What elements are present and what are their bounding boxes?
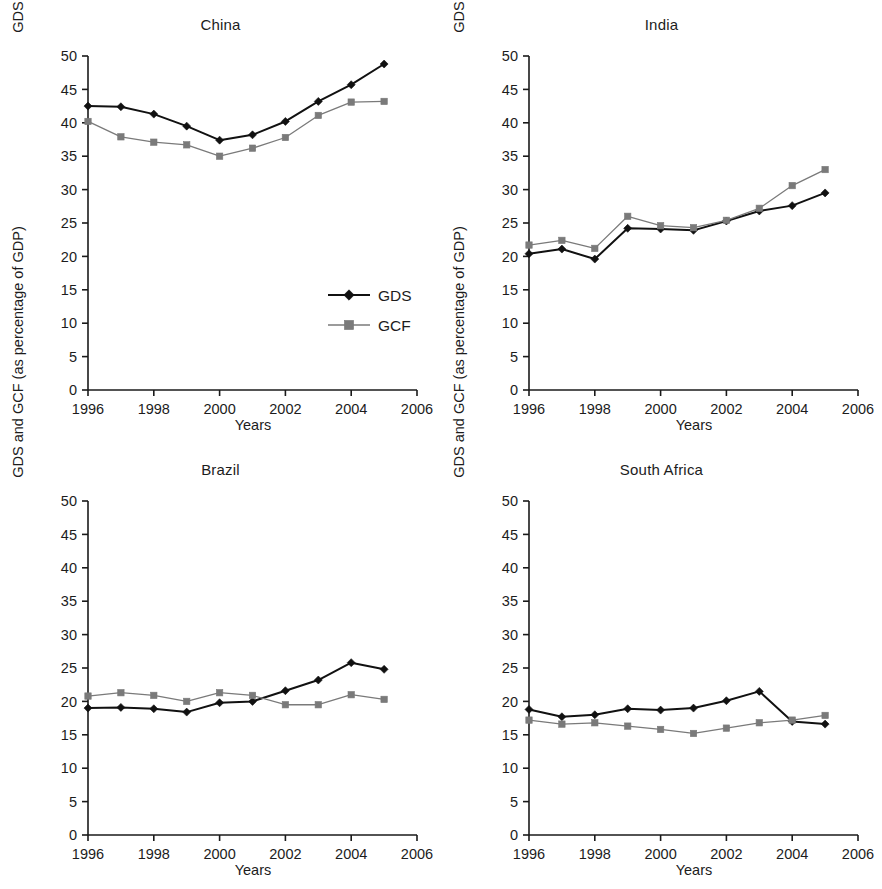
y-axis-label: GDS and GCF (as percentage of GDP) [451, 184, 471, 520]
y-tick-label: 10 [61, 315, 77, 331]
y-tick-label: 5 [510, 349, 518, 365]
data-point-marker [690, 730, 696, 736]
data-point-marker [216, 690, 222, 696]
data-point-marker [118, 134, 124, 140]
y-tick-label: 40 [502, 115, 518, 131]
data-point-marker [216, 136, 224, 144]
y-tick-label: 0 [69, 827, 77, 843]
chart-panel-india: 0510152025303540455019961998200020022004… [441, 0, 882, 445]
series-gds [525, 189, 829, 263]
data-point-marker [249, 131, 257, 139]
y-tick-label: 50 [502, 48, 518, 64]
x-tick-label: 1996 [513, 401, 545, 417]
x-tick-label: 1996 [513, 846, 545, 862]
data-point-marker [282, 702, 288, 708]
data-point-marker [151, 139, 157, 145]
chart-panel-brazil: 0510152025303540455019961998200020022004… [0, 445, 441, 889]
series-line [529, 691, 825, 724]
y-tick-label: 45 [61, 82, 77, 98]
data-point-marker [822, 712, 828, 718]
data-point-marker [249, 692, 255, 698]
y-tick-label: 25 [502, 215, 518, 231]
data-point-marker [559, 721, 565, 727]
y-tick-label: 0 [510, 382, 518, 398]
y-tick-label: 30 [502, 627, 518, 643]
x-tick-label: 1998 [579, 401, 611, 417]
data-point-marker [525, 705, 533, 713]
x-tick-label: 2006 [842, 846, 874, 862]
plot-area: 0510152025303540455019961998200020022004… [441, 0, 882, 445]
data-point-marker [822, 166, 828, 172]
data-point-marker [690, 224, 696, 230]
y-tick-label: 30 [502, 182, 518, 198]
data-point-marker [118, 690, 124, 696]
panel-title: South Africa [441, 461, 882, 478]
y-tick-label: 20 [502, 694, 518, 710]
data-point-marker [117, 103, 125, 111]
data-point-marker [526, 242, 532, 248]
y-tick-label: 50 [61, 48, 77, 64]
chart-panel-china: 0510152025303540455019961998200020022004… [0, 0, 441, 445]
x-tick-label: 1998 [138, 401, 170, 417]
y-tick-label: 45 [61, 527, 77, 543]
x-tick-label: 1996 [72, 401, 104, 417]
figure-panel-grid: 0510152025303540455019961998200020022004… [0, 0, 882, 889]
data-point-marker [281, 687, 289, 695]
data-point-marker [756, 205, 762, 211]
data-point-marker [85, 118, 91, 124]
x-tick-label: 2002 [710, 846, 742, 862]
x-tick-label: 2006 [401, 401, 433, 417]
data-point-marker [657, 726, 663, 732]
x-tick-label: 1996 [72, 846, 104, 862]
y-tick-label: 10 [61, 760, 77, 776]
y-tick-label: 35 [61, 148, 77, 164]
data-point-marker [216, 699, 224, 707]
series-gds [84, 659, 388, 716]
data-point-marker [526, 717, 532, 723]
y-tick-label: 40 [61, 560, 77, 576]
y-tick-label: 5 [510, 794, 518, 810]
chart-legend: GDSGCF [328, 287, 412, 334]
x-tick-label: 2006 [842, 401, 874, 417]
x-axis-label: Years [88, 862, 418, 878]
data-point-marker [184, 698, 190, 704]
data-point-marker [381, 98, 387, 104]
data-point-marker [84, 102, 92, 110]
x-tick-label: 1998 [138, 846, 170, 862]
y-tick-label: 50 [61, 493, 77, 509]
data-point-marker [314, 676, 322, 684]
y-tick-label: 20 [502, 249, 518, 265]
x-tick-label: 2002 [269, 846, 301, 862]
legend-marker-gds [344, 290, 354, 300]
data-point-marker [249, 145, 255, 151]
x-tick-label: 2004 [776, 401, 808, 417]
y-tick-label: 25 [61, 215, 77, 231]
y-tick-label: 50 [502, 493, 518, 509]
data-point-marker [150, 110, 158, 118]
data-point-marker [657, 706, 665, 714]
data-point-marker [183, 708, 191, 716]
series-gds [525, 687, 829, 728]
y-tick-label: 30 [61, 627, 77, 643]
data-point-marker [315, 112, 321, 118]
data-point-marker [788, 202, 796, 210]
legend-marker-gcf [344, 320, 353, 329]
legend-label-gcf: GCF [378, 317, 411, 334]
y-tick-label: 45 [502, 527, 518, 543]
data-point-marker [183, 122, 191, 130]
data-point-marker [347, 659, 355, 667]
data-point-marker [150, 705, 158, 713]
series-gds [84, 60, 388, 144]
series-gcf [85, 98, 388, 159]
data-point-marker [558, 713, 566, 721]
data-point-marker [558, 245, 566, 253]
legend-label-gds: GDS [378, 287, 412, 304]
y-tick-label: 45 [502, 82, 518, 98]
data-point-marker [151, 692, 157, 698]
data-point-marker [591, 711, 599, 719]
x-tick-label: 2004 [335, 846, 367, 862]
y-tick-label: 30 [61, 182, 77, 198]
data-point-marker [789, 717, 795, 723]
panel-title: Brazil [0, 461, 441, 478]
data-point-marker [625, 723, 631, 729]
